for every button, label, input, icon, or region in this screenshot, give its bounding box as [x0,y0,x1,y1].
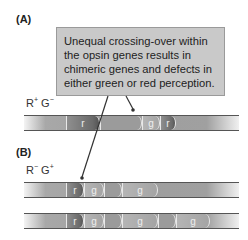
leader-lines [0,0,248,240]
leader-dot-b [80,176,84,180]
leader-line-to-b [82,96,108,177]
leader-line-to-a [126,96,133,109]
leader-dot-a [131,108,135,112]
